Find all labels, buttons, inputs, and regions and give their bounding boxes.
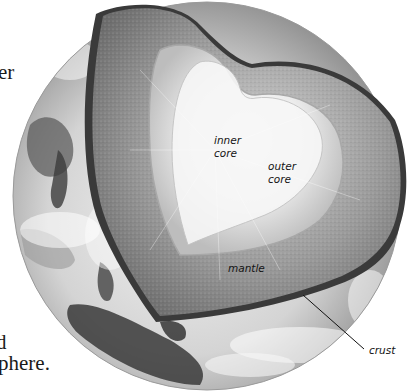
earth-cutaway-illustration <box>0 0 411 392</box>
body-text-fragment-2: d <box>0 332 7 353</box>
label-crust: crust <box>369 344 395 357</box>
label-mantle: mantle <box>228 262 265 275</box>
body-text-fragment-3: phere. <box>0 353 50 374</box>
earth-layers-figure: inner core outer core mantle crust er d … <box>0 0 411 392</box>
body-text-fragment-1: er <box>0 62 14 83</box>
label-outer-core: outer core <box>268 160 296 186</box>
label-inner-core: inner core <box>214 134 241 160</box>
